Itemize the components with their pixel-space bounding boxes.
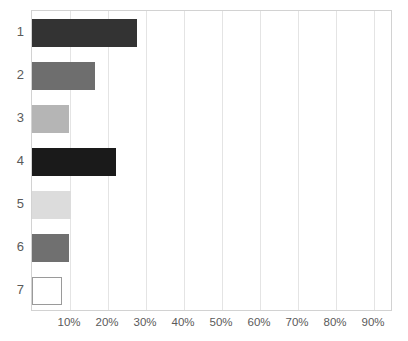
gridline-30% (146, 11, 147, 310)
y-axis-label-1: 1 (0, 25, 24, 38)
bar-chart: 1234567 10%20%30%40%50%60%70%80%90% (0, 0, 408, 341)
x-tick-70%: 70% (285, 316, 308, 328)
gridline-50% (222, 11, 223, 310)
bar-5 (32, 191, 71, 219)
y-axis-label-5: 5 (0, 197, 24, 210)
gridline-70% (298, 11, 299, 310)
x-tick-60%: 60% (247, 316, 270, 328)
x-tick-40%: 40% (171, 316, 194, 328)
gridline-60% (260, 11, 261, 310)
bar-7 (32, 277, 62, 305)
y-axis-label-2: 2 (0, 68, 24, 81)
x-tick-80%: 80% (323, 316, 346, 328)
y-axis-label-7: 7 (0, 283, 24, 296)
y-axis-label-6: 6 (0, 240, 24, 253)
bar-2 (32, 62, 95, 90)
plot-area (31, 10, 392, 311)
x-tick-90%: 90% (361, 316, 384, 328)
x-tick-50%: 50% (209, 316, 232, 328)
x-tick-20%: 20% (95, 316, 118, 328)
chart-title-clipped (0, 0, 408, 7)
gridline-90% (374, 11, 375, 310)
bar-4 (32, 148, 116, 176)
y-axis-label-4: 4 (0, 154, 24, 167)
y-axis-label-3: 3 (0, 111, 24, 124)
bar-3 (32, 105, 69, 133)
x-tick-10%: 10% (57, 316, 80, 328)
bar-1 (32, 19, 137, 47)
bar-6 (32, 234, 69, 262)
gridline-40% (184, 11, 185, 310)
x-tick-30%: 30% (133, 316, 156, 328)
gridline-80% (336, 11, 337, 310)
